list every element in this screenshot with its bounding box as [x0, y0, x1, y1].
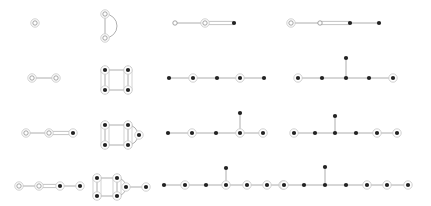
open-node [103, 12, 107, 16]
graph-g12 [290, 114, 401, 137]
filled-node [302, 183, 306, 187]
graph-g9 [22, 129, 77, 137]
filled-node [238, 111, 242, 115]
filled-node [126, 88, 130, 92]
open-node [37, 184, 41, 188]
filled-node [367, 76, 371, 80]
open-node [17, 184, 21, 188]
filled-node [204, 183, 208, 187]
filled-node [126, 68, 130, 72]
filled-node [375, 131, 379, 135]
open-node [33, 21, 37, 25]
filled-node [224, 183, 228, 187]
filled-node [282, 183, 286, 187]
filled-node [391, 76, 395, 80]
filled-node [333, 114, 337, 118]
filled-node [214, 131, 218, 135]
filled-node [377, 21, 381, 25]
filled-node [344, 76, 348, 80]
filled-node [245, 183, 249, 187]
filled-node [296, 76, 300, 80]
filled-node [395, 131, 399, 135]
open-node [203, 21, 207, 25]
filled-node [137, 133, 141, 137]
filled-node [103, 88, 107, 92]
filled-node [333, 131, 337, 135]
filled-node [262, 76, 266, 80]
graph-g3 [173, 19, 236, 27]
filled-node [238, 76, 242, 80]
open-node [173, 21, 177, 25]
filled-node [115, 176, 119, 180]
filled-node [265, 183, 269, 187]
filled-node [58, 184, 62, 188]
filled-node [385, 183, 389, 187]
filled-node [365, 183, 369, 187]
filled-node [191, 76, 195, 80]
graph-g16 [280, 165, 412, 189]
filled-node [95, 176, 99, 180]
open-node [289, 21, 293, 25]
open-node [103, 36, 107, 40]
filled-node [323, 183, 327, 187]
graph-g8 [294, 56, 397, 82]
filled-node [320, 76, 324, 80]
filled-node [103, 143, 107, 147]
filled-node [190, 131, 194, 135]
graph-g2 [101, 10, 117, 42]
graph-g11 [166, 111, 267, 137]
filled-node [406, 183, 410, 187]
filled-node [344, 56, 348, 60]
filled-node [126, 123, 130, 127]
graph-grid-diagram [0, 0, 431, 206]
filled-node [126, 143, 130, 147]
filled-node [71, 131, 75, 135]
filled-node [103, 123, 107, 127]
filled-node [95, 194, 99, 198]
filled-node [167, 76, 171, 80]
filled-node [232, 21, 236, 25]
graph-g4 [287, 19, 381, 27]
filled-node [344, 183, 348, 187]
filled-node [115, 194, 119, 198]
graph-g7 [167, 74, 266, 82]
graph-g13 [15, 182, 84, 190]
graph-g10 [101, 121, 143, 149]
open-node [54, 76, 58, 80]
filled-node [215, 76, 219, 80]
graph-g1 [31, 19, 39, 27]
filled-node [78, 184, 82, 188]
filled-node [313, 131, 317, 135]
graph-g5 [28, 74, 60, 82]
open-node [30, 76, 34, 80]
filled-node [354, 131, 358, 135]
filled-node [238, 131, 242, 135]
filled-node [144, 185, 148, 189]
filled-node [292, 131, 296, 135]
filled-node [261, 131, 265, 135]
open-node [47, 131, 51, 135]
graph-g14 [93, 174, 150, 200]
filled-node [323, 165, 327, 169]
open-node [24, 131, 28, 135]
filled-node [124, 185, 128, 189]
filled-node [224, 166, 228, 170]
filled-node [183, 183, 187, 187]
open-node [318, 21, 322, 25]
graph-g6 [101, 66, 132, 94]
filled-node [348, 21, 352, 25]
filled-node [166, 131, 170, 135]
graph-g15 [162, 166, 287, 189]
filled-node [162, 183, 166, 187]
filled-node [103, 68, 107, 72]
